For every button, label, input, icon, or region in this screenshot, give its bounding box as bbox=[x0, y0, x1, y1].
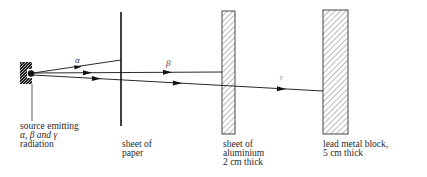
radiation-source bbox=[20, 62, 34, 121]
aluminium-label: sheet of aluminium 2 cm thick bbox=[223, 140, 264, 167]
lead-block bbox=[323, 10, 348, 134]
gamma-arrow-icon-3 bbox=[277, 86, 286, 91]
source-label: source emitting α, β and γ radiation bbox=[20, 122, 79, 149]
paper-label: sheet of paper bbox=[122, 140, 152, 158]
beta-symbol: β bbox=[166, 58, 170, 68]
beta-arrow-icon bbox=[163, 70, 172, 75]
alpha-symbol: α bbox=[75, 55, 80, 65]
gamma-arrow-icon-1 bbox=[92, 76, 101, 81]
beta-ray bbox=[33, 70, 222, 75]
beta-arrow-icon-2 bbox=[83, 70, 92, 75]
gamma-arrow-icon-2 bbox=[173, 81, 182, 86]
lead-label: lead metal block, 5 cm thick bbox=[323, 140, 388, 158]
gamma-symbol: γ bbox=[280, 73, 283, 81]
aluminium-sheet bbox=[222, 11, 235, 134]
